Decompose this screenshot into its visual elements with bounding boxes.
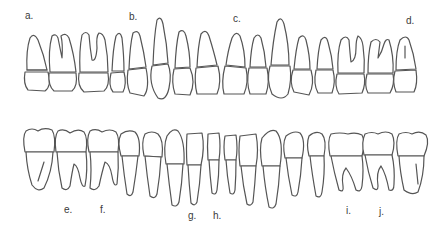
label-i: i.	[346, 205, 351, 216]
label-a: a.	[25, 10, 33, 21]
label-d: d.	[406, 15, 414, 26]
upper-arch	[24, 18, 416, 99]
label-f: f.	[100, 204, 106, 215]
label-b: b.	[129, 11, 137, 22]
label-h: h.	[213, 210, 221, 221]
lower-arch	[24, 129, 428, 208]
teeth-drawing	[0, 0, 447, 231]
label-c: c.	[233, 13, 241, 24]
label-j: j.	[379, 206, 384, 217]
dentition-diagram: a. b. c. d. e. f. g. h. i. j.	[0, 0, 447, 231]
label-e: e.	[64, 204, 72, 215]
label-g: g.	[188, 210, 196, 221]
